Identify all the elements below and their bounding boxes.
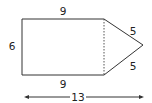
label-left-side: 6 [9, 40, 16, 52]
triangle-upper-side [104, 19, 143, 45]
label-bottom-side: 9 [60, 78, 67, 90]
label-total-length: 13 [71, 91, 84, 103]
arrowhead-right-icon [139, 95, 144, 99]
composite-shape-diagram: 9 6 9 5 5 13 [0, 0, 152, 103]
label-triangle-upper-side: 5 [130, 25, 137, 37]
triangle-lower-side [104, 45, 143, 75]
arrowhead-left-icon [24, 95, 29, 99]
label-top-side: 9 [60, 5, 67, 17]
label-triangle-lower-side: 5 [130, 60, 137, 72]
